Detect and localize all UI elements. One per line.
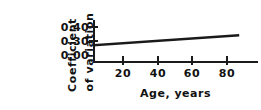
plot-area [0, 0, 261, 110]
chart-figure: Coefficient of variation 0.40 0.30 0.00 … [0, 0, 261, 110]
data-series-line [94, 35, 238, 45]
